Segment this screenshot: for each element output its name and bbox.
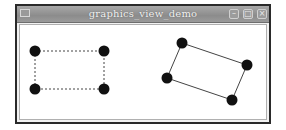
right-rectangle-handle-0[interactable]	[177, 38, 188, 49]
left-rectangle-handle-2[interactable]	[99, 84, 110, 95]
scene-layer	[0, 0, 286, 130]
right-rectangle-handle-2[interactable]	[227, 95, 238, 106]
left-rectangle[interactable]	[35, 51, 104, 89]
left-rectangle-handle-1[interactable]	[99, 46, 110, 57]
right-rectangle[interactable]	[167, 43, 247, 100]
right-rectangle-handle-3[interactable]	[162, 73, 173, 84]
left-rectangle-handle-3[interactable]	[30, 84, 41, 95]
right-rectangle-handle-1[interactable]	[242, 60, 253, 71]
left-rectangle-handle-0[interactable]	[30, 46, 41, 57]
